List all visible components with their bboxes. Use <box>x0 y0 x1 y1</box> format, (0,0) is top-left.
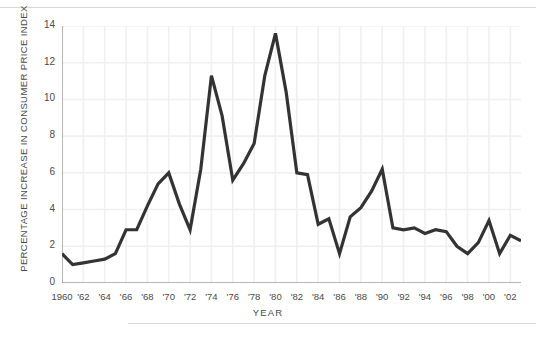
y-tick-label: 8 <box>31 129 55 140</box>
grid-lines <box>62 26 521 283</box>
x-axis-title: YEAR <box>0 307 536 318</box>
y-tick-label: 4 <box>31 203 55 214</box>
y-tick-label: 2 <box>31 239 55 250</box>
x-tick-label: '02 <box>490 291 530 302</box>
y-tick-label: 6 <box>31 166 55 177</box>
y-tick-label: 0 <box>31 276 55 287</box>
bottom-divider-rule <box>128 323 536 324</box>
chart-svg <box>62 26 521 283</box>
y-tick-label: 10 <box>31 92 55 103</box>
cpi-line-chart-figure: PERCENTAGE INCREASE IN CONSUMER PRICE IN… <box>0 0 536 338</box>
y-tick-label: 12 <box>31 56 55 67</box>
cpi-data-line <box>62 33 521 264</box>
axis-lines <box>62 26 521 283</box>
y-tick-label: 14 <box>31 19 55 30</box>
top-divider-rule <box>0 7 536 8</box>
y-axis-title: PERCENTAGE INCREASE IN CONSUMER PRICE IN… <box>18 0 29 284</box>
plot-area <box>62 26 521 283</box>
axis-tick-marks <box>62 26 521 283</box>
